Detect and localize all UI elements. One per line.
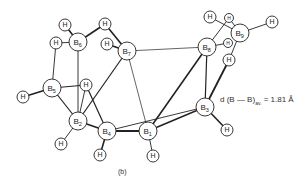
svg-text:H: H	[227, 15, 231, 21]
hydrogen-atom-H4: H	[94, 149, 106, 161]
bond-B7-B8	[127, 47, 207, 51]
distance-value: = 1.81 Å	[264, 95, 294, 104]
hydrogen-atom-H7: H	[101, 38, 113, 50]
hydrogen-atom-H5: H	[17, 91, 29, 103]
bond-B7-B1	[127, 51, 148, 131]
svg-text:H: H	[226, 56, 231, 63]
hydrogen-atom-H67: H	[99, 18, 111, 30]
boron-atom-B5: B5	[43, 79, 61, 97]
boron-atom-B8: B8	[198, 38, 216, 56]
distance-subscript: av.	[255, 100, 261, 106]
svg-text:H: H	[226, 40, 230, 46]
svg-text:H: H	[97, 151, 102, 158]
svg-text:H: H	[62, 21, 67, 28]
svg-text:H: H	[269, 18, 274, 25]
hydrogen-atom-H6a: H	[59, 19, 71, 31]
borane-structure-diagram: B1B2B3B4B5B6B7B8B9HHHHHHHHHHHHHHH	[0, 0, 306, 185]
boron-atom-B7: B7	[118, 42, 136, 60]
svg-text:H: H	[104, 40, 109, 47]
hydrogen-atom-H89: H	[225, 14, 234, 23]
atoms-layer: B1B2B3B4B5B6B7B8B9HHHHHHHHHHHHHHH	[17, 11, 278, 162]
hydrogen-atom-H2: H	[55, 138, 67, 150]
boron-atom-B4: B4	[98, 122, 116, 140]
svg-text:H: H	[58, 140, 63, 147]
hydrogen-atom-H1: H	[147, 150, 159, 162]
svg-text:H: H	[207, 13, 212, 20]
boron-atom-B1: B1	[139, 122, 157, 140]
svg-text:H: H	[102, 20, 107, 27]
svg-text:H: H	[224, 126, 229, 133]
hydrogen-atom-H3b: H	[223, 54, 235, 66]
svg-text:H: H	[53, 39, 58, 46]
figure-caption: (b)	[118, 168, 127, 175]
hydrogen-atom-H6b: H	[50, 37, 62, 49]
svg-text:H: H	[20, 93, 25, 100]
distance-prefix: d (B — B)	[220, 95, 255, 104]
hydrogen-atom-H8: H	[224, 39, 233, 48]
svg-text:H: H	[150, 152, 155, 159]
hydrogen-atom-H52: H	[80, 79, 92, 91]
boron-atom-B2: B2	[69, 112, 87, 130]
boron-atom-B3: B3	[196, 98, 214, 116]
hydrogen-atom-H3: H	[221, 124, 233, 136]
average-bond-distance-label: d (B — B)av. = 1.81 Å	[220, 95, 294, 106]
boron-atom-B9: B9	[231, 24, 249, 42]
svg-text:H: H	[83, 81, 88, 88]
boron-atom-B6: B6	[69, 33, 87, 51]
hydrogen-atom-H9a: H	[204, 11, 216, 23]
hydrogen-atom-H9b: H	[266, 16, 278, 28]
